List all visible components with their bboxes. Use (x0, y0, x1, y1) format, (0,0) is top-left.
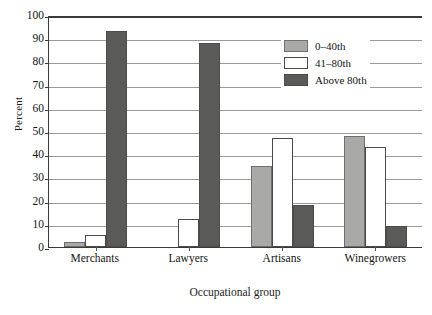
y-tick-label: 80 (8, 57, 44, 69)
x-tick-mark (189, 247, 190, 251)
bar-group (49, 17, 142, 247)
legend-label-0-40th: 0–40th (315, 40, 346, 52)
y-tick-label: 30 (8, 173, 44, 185)
y-tick-label: 50 (8, 126, 44, 138)
legend-label-41-80th: 41–80th (315, 57, 351, 69)
y-tick-label: 100 (8, 10, 44, 22)
x-tick-label: Lawyers (142, 252, 236, 264)
x-tick-mark (282, 247, 283, 251)
legend-swatch-above-80th (284, 74, 308, 86)
y-tick-label: 70 (8, 80, 44, 92)
y-tick-label: 10 (8, 219, 44, 231)
bar (199, 43, 220, 247)
x-tick-label: Artisans (235, 252, 329, 264)
plot-area: 0–40th 41–80th Above 80th (48, 16, 422, 248)
x-axis-title: Occupational group (48, 286, 422, 298)
y-tick-label: 40 (8, 149, 44, 161)
y-tick-label: 0 (8, 242, 44, 254)
bar (251, 166, 272, 247)
bar (85, 235, 106, 247)
bar (365, 147, 386, 247)
x-tick-mark (375, 247, 376, 251)
bar (344, 136, 365, 247)
y-tick-label: 60 (8, 103, 44, 115)
y-tick-mark (45, 249, 49, 250)
legend-label-above-80th: Above 80th (315, 74, 367, 86)
legend-item-0-40th: 0–40th (284, 39, 367, 53)
y-axis-tick-labels: 0102030405060708090100 (8, 16, 44, 248)
bar (106, 31, 127, 247)
bar (64, 242, 85, 247)
x-tick-label: Merchants (48, 252, 142, 264)
y-tick-label: 20 (8, 196, 44, 208)
y-tick-label: 90 (8, 33, 44, 45)
bar (293, 205, 314, 247)
bar (386, 226, 407, 247)
legend-swatch-0-40th (284, 40, 308, 52)
bar-chart: Percent 0102030405060708090100 0–40th 41… (0, 0, 432, 315)
legend-item-41-80th: 41–80th (284, 56, 367, 70)
x-tick-label: Winegrowers (329, 252, 423, 264)
legend-swatch-41-80th (284, 57, 308, 69)
x-tick-mark (96, 247, 97, 251)
legend-item-above-80th: Above 80th (284, 73, 367, 87)
x-axis-tick-labels: MerchantsLawyersArtisansWinegrowers (48, 252, 422, 264)
legend: 0–40th 41–80th Above 80th (281, 37, 370, 89)
bar (178, 219, 199, 247)
bar (272, 138, 293, 247)
bar-group (142, 17, 235, 247)
